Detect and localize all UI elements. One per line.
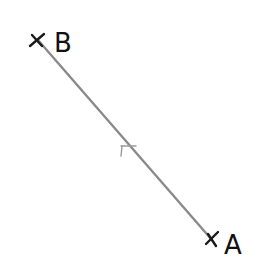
segment-ba	[38, 40, 212, 240]
marker-a-x-icon	[206, 232, 218, 246]
diagram-canvas	[0, 0, 260, 276]
marker-b-x-icon	[30, 34, 44, 46]
point-label-b: B	[54, 30, 72, 56]
point-label-a: A	[224, 232, 242, 258]
